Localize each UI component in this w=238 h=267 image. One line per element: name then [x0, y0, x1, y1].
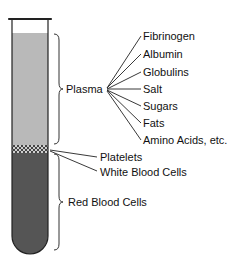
- blood-composition-diagram: Plasma Fibrinogen Albumin Globulins Salt…: [0, 0, 238, 267]
- empty-space: [10, 18, 50, 33]
- plasma-layer: [10, 33, 50, 145]
- red-cell-layer: [10, 153, 50, 258]
- buffy-coat-layer: [10, 145, 50, 153]
- red-blood-cells-label: Red Blood Cells: [68, 196, 147, 208]
- plasma-constituents: Fibrinogen Albumin Globulins Salt Sugars…: [143, 30, 227, 146]
- plasma-label: Plasma: [66, 83, 104, 95]
- red-cells-brace: [54, 154, 63, 250]
- constituent-fibrinogen: Fibrinogen: [143, 30, 195, 42]
- constituent-fats: Fats: [143, 117, 165, 129]
- buffy-pointer-lines: [50, 150, 97, 171]
- white-blood-cells-label: White Blood Cells: [100, 166, 187, 178]
- constituent-albumin: Albumin: [143, 48, 183, 60]
- constituent-globulins: Globulins: [143, 66, 189, 78]
- test-tube: [9, 18, 51, 258]
- platelets-label: Platelets: [100, 151, 143, 163]
- constituent-salt: Salt: [143, 83, 162, 95]
- constituent-sugars: Sugars: [143, 100, 178, 112]
- plasma-brace: [54, 34, 63, 144]
- constituent-amino-acids: Amino Acids, etc.: [143, 134, 227, 146]
- plasma-fan-lines: [107, 36, 141, 140]
